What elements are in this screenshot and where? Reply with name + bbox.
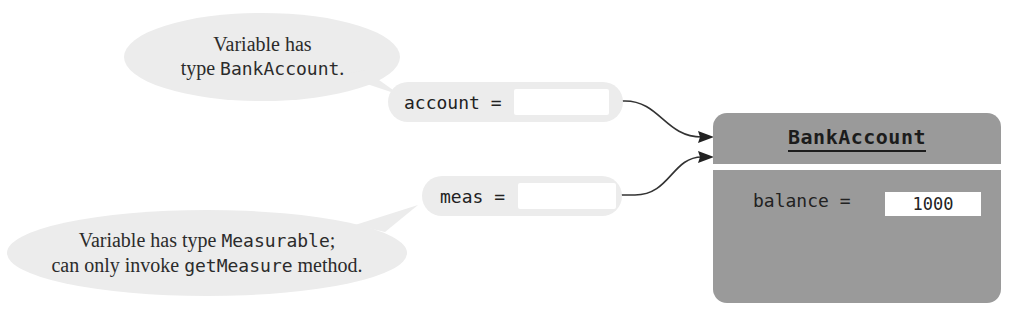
field-balance-label: balance = (753, 190, 851, 211)
variable-account-label: account = (404, 92, 502, 113)
variable-meas-label: meas = (440, 186, 505, 207)
arrowhead-icon (698, 131, 714, 143)
top-callout-line1: Variable has (140, 32, 385, 56)
field-balance-value: 1000 (885, 192, 981, 216)
bottom-callout-line1: Variable has type Measurable; (7, 228, 407, 253)
bankaccount-object: BankAccount balance = 1000 (713, 113, 1001, 303)
arrowhead-icon (698, 151, 714, 163)
variable-account: account = (388, 82, 623, 122)
bottom-callout-line2: can only invoke getMeasure method. (7, 253, 407, 278)
variable-meas: meas = (422, 176, 622, 216)
variable-account-value (514, 89, 609, 115)
top-callout-text: Variable has type BankAccount. (140, 32, 385, 81)
variable-meas-value (518, 183, 616, 209)
bottom-callout-text: Variable has type Measurable; can only i… (7, 228, 407, 278)
object-class-name: BankAccount (788, 125, 926, 152)
top-callout-line2: type BankAccount. (140, 56, 385, 81)
object-header: BankAccount (713, 113, 1001, 164)
object-body: balance = 1000 (713, 170, 1001, 303)
